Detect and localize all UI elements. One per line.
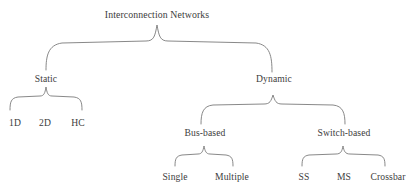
brace-bus-based-to-children xyxy=(175,146,233,166)
two-d-node: 2D xyxy=(39,118,51,128)
brace-switch-based-to-children xyxy=(302,146,385,166)
hc-node: HC xyxy=(71,118,85,128)
root-node-label: Interconnection Networks xyxy=(105,10,209,20)
switch-based-node: Switch-based xyxy=(318,128,371,138)
ms-node: MS xyxy=(337,172,351,182)
multiple-node: Multiple xyxy=(215,172,249,182)
one-d-node: 1D xyxy=(9,118,21,128)
static-node: Static xyxy=(35,74,57,84)
dynamic-node: Dynamic xyxy=(256,74,292,84)
brace-static-to-children xyxy=(10,87,82,110)
single-node: Single xyxy=(162,172,187,182)
brace-dynamic-to-children xyxy=(201,95,345,124)
interconnection-networks-taxonomy-diagram: Interconnection Networks Static Dynamic … xyxy=(0,0,412,188)
ss-node: SS xyxy=(299,172,310,182)
bus-based-node: Bus-based xyxy=(185,128,226,138)
brace-connector-layer xyxy=(0,0,412,188)
brace-root-to-level-one xyxy=(46,25,272,72)
crossbar-node: Crossbar xyxy=(371,172,406,182)
